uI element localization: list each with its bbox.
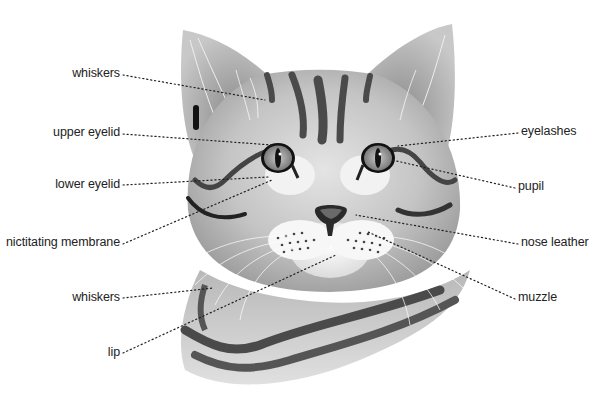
label-whiskers-upper: whiskers <box>72 66 120 80</box>
label-nictitating-membrane: nictitating membrane <box>6 235 120 249</box>
label-muzzle: muzzle <box>518 290 557 304</box>
label-upper-eyelid: upper eyelid <box>53 125 120 139</box>
label-lip: lip <box>108 345 120 359</box>
label-eyelashes: eyelashes <box>521 124 576 138</box>
label-whiskers-lower: whiskers <box>72 290 120 304</box>
label-nose-leather: nose leather <box>521 235 589 249</box>
cat-anatomy-diagram: whiskers upper eyelid lower eyelid nicti… <box>0 0 593 401</box>
right-muzzle-pad <box>330 220 394 260</box>
label-lower-eyelid: lower eyelid <box>55 177 120 191</box>
label-pupil: pupil <box>518 179 544 193</box>
cat-illustration <box>0 0 593 401</box>
left-muzzle-pad <box>268 220 332 260</box>
